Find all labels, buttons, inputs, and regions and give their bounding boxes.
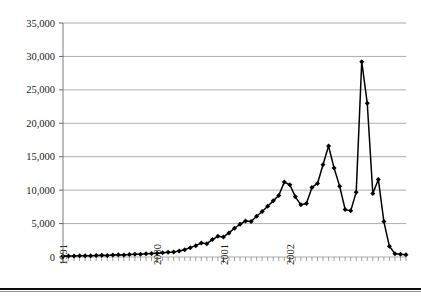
x-tick-label: 2001 bbox=[219, 244, 230, 265]
y-tick-label: 10,000 bbox=[26, 185, 55, 196]
data-point-marker bbox=[116, 252, 121, 257]
y-tick-label: 15,000 bbox=[26, 151, 55, 162]
chart-canvas: 05,00010,00015,00020,00025,00030,00035,0… bbox=[0, 0, 421, 303]
data-point-marker bbox=[304, 201, 309, 206]
y-tick-group bbox=[59, 23, 63, 257]
data-point-marker bbox=[199, 240, 204, 245]
data-point-marker bbox=[326, 144, 331, 149]
data-point-marker bbox=[166, 250, 171, 255]
data-point-marker bbox=[132, 252, 137, 257]
data-point-marker bbox=[332, 166, 337, 171]
data-point-marker bbox=[72, 254, 77, 259]
y-tick-label: 35,000 bbox=[26, 18, 55, 29]
data-point-marker bbox=[343, 207, 348, 212]
data-point-marker bbox=[398, 252, 403, 257]
data-point-marker bbox=[188, 245, 193, 250]
data-point-marker bbox=[177, 248, 182, 253]
data-point-marker bbox=[337, 184, 342, 189]
y-tick-label: 0 bbox=[50, 252, 55, 263]
y-tick-label: 5,000 bbox=[31, 218, 55, 229]
page-edge-rule-secondary bbox=[0, 291, 421, 292]
data-point-marker bbox=[348, 208, 353, 213]
y-tick-label: 20,000 bbox=[26, 118, 55, 129]
line-chart: 05,00010,00015,00020,00025,00030,00035,0… bbox=[0, 0, 421, 303]
data-point-marker bbox=[321, 162, 326, 167]
data-point-marker bbox=[88, 253, 93, 258]
data-point-marker bbox=[182, 247, 187, 252]
data-point-marker bbox=[287, 182, 292, 187]
data-point-marker bbox=[83, 253, 88, 258]
data-point-marker bbox=[138, 252, 143, 257]
data-point-marker bbox=[77, 253, 82, 258]
data-point-marker bbox=[193, 243, 198, 248]
data-point-marker bbox=[171, 249, 176, 254]
data-point-marker bbox=[404, 252, 409, 257]
gridline-group bbox=[63, 23, 406, 257]
y-axis-labels: 05,00010,00015,00020,00025,00030,00035,0… bbox=[26, 18, 55, 263]
x-axis-labels: 1991200020012002 bbox=[58, 244, 296, 265]
y-tick-label: 30,000 bbox=[26, 51, 55, 62]
page-edge-rule bbox=[0, 288, 421, 290]
data-point-marker bbox=[370, 191, 375, 196]
data-point-marker bbox=[365, 101, 370, 106]
x-tick-group bbox=[63, 257, 406, 261]
data-point-markers bbox=[61, 59, 409, 258]
y-tick-label: 25,000 bbox=[26, 84, 55, 95]
data-point-marker bbox=[127, 252, 132, 257]
x-tick-label: 2002 bbox=[285, 244, 296, 265]
data-point-marker bbox=[143, 251, 148, 256]
data-point-marker bbox=[282, 180, 287, 185]
data-point-marker bbox=[359, 59, 364, 64]
data-point-marker bbox=[376, 177, 381, 182]
